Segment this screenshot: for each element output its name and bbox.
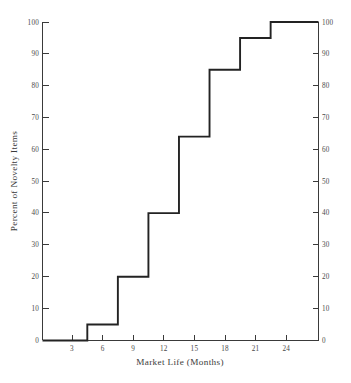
y-tick-label-left: 100 <box>28 19 40 27</box>
y-tick-label-left: 0 <box>35 337 39 345</box>
y-tick-label-right: 90 <box>322 50 330 58</box>
y-tick-label-right: 50 <box>322 178 330 186</box>
x-tick-label: 18 <box>221 345 229 353</box>
x-tick-label: 15 <box>191 345 199 353</box>
x-tick-label: 3 <box>70 345 74 353</box>
step-chart-svg: 100 90 80 70 60 50 40 30 20 10 0 100 <box>0 0 351 383</box>
y-tick-label-right: 10 <box>322 305 330 313</box>
y-tick-label-right: 70 <box>322 114 330 122</box>
y-tick-label-left: 40 <box>31 209 39 217</box>
y-axis-right-tick-labels: 100 90 80 70 60 50 40 30 20 10 0 <box>322 19 334 345</box>
y-tick-label-right: 30 <box>322 241 330 249</box>
y-tick-label-left: 90 <box>31 50 39 58</box>
y-tick-label-left: 30 <box>31 241 39 249</box>
y-tick-label-right: 60 <box>322 146 330 154</box>
chart-container: 100 90 80 70 60 50 40 30 20 10 0 100 <box>0 0 351 383</box>
y-tick-label-right: 100 <box>322 19 334 27</box>
y-tick-label-right: 20 <box>322 273 330 281</box>
y-axis-right-ticks <box>313 22 319 308</box>
x-tick-label: 9 <box>131 345 135 353</box>
x-tick-label: 6 <box>101 345 105 353</box>
y-tick-label-left: 50 <box>31 178 39 186</box>
x-tick-label: 12 <box>160 345 168 353</box>
y-tick-label-left: 80 <box>31 82 39 90</box>
y-axis-left-ticks <box>43 22 49 308</box>
y-tick-label-right: 0 <box>322 337 326 345</box>
x-axis-tick-labels: 3 6 9 12 15 18 21 24 <box>70 345 290 353</box>
y-tick-label-left: 60 <box>31 146 39 154</box>
x-axis-ticks <box>72 335 286 341</box>
x-tick-label: 24 <box>282 345 290 353</box>
cumulative-step-line <box>43 22 319 341</box>
y-axis-title: Percent of Novelty Items <box>9 131 19 232</box>
y-tick-label-left: 10 <box>31 305 39 313</box>
y-tick-label-right: 80 <box>322 82 330 90</box>
x-tick-label: 21 <box>252 345 260 353</box>
x-axis-title: Market Life (Months) <box>136 357 224 367</box>
y-tick-label-right: 40 <box>322 209 330 217</box>
y-axis-left-tick-labels: 100 90 80 70 60 50 40 30 20 10 0 <box>28 19 40 345</box>
y-tick-label-left: 70 <box>31 114 39 122</box>
y-tick-label-left: 20 <box>31 273 39 281</box>
